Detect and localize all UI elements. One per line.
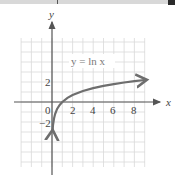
x-tick-6: 6 — [110, 104, 116, 116]
x-tick-4: 4 — [90, 104, 96, 116]
y-tick-neg2: −2 — [39, 117, 51, 129]
y-tick-2: 2 — [45, 76, 51, 88]
y-axis-label: y — [48, 8, 54, 20]
x-tick-2: 2 — [70, 104, 76, 116]
x-tick-8: 8 — [131, 104, 137, 116]
x-axis-label: x — [165, 96, 171, 108]
x-tick-0: 0 — [45, 104, 51, 116]
ln-graph: x y 0 2 4 6 8 2 −2 y = ln x — [0, 0, 175, 180]
function-label: y = ln x — [71, 55, 106, 67]
